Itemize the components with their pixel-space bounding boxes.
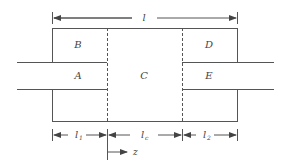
- left-length-label: l 1: [75, 129, 83, 141]
- svg-text:l: l: [203, 129, 206, 140]
- region-label-d: D: [204, 39, 213, 50]
- total-length-label: l: [142, 12, 145, 23]
- muffler-diagram: B A C D E l l 1 l c l 2 z: [0, 0, 289, 166]
- diagram-canvas: B A C D E l l 1 l c l 2 z: [0, 0, 289, 166]
- z-axis-label: z: [132, 147, 138, 157]
- right-length-subscript: 2: [206, 134, 211, 141]
- region-label-c: C: [140, 70, 148, 81]
- region-label-b: B: [73, 39, 81, 50]
- inlet-pipe: [17, 63, 107, 90]
- svg-text:l: l: [75, 129, 78, 140]
- center-length-subscript: c: [145, 134, 149, 141]
- right-length-label: l 2: [203, 129, 211, 141]
- left-length-subscript: 1: [79, 134, 83, 141]
- center-length-label: l c: [141, 129, 149, 141]
- region-label-a: A: [73, 70, 81, 81]
- svg-text:l: l: [141, 129, 144, 140]
- region-label-e: E: [204, 70, 213, 81]
- outlet-pipe: [182, 63, 274, 90]
